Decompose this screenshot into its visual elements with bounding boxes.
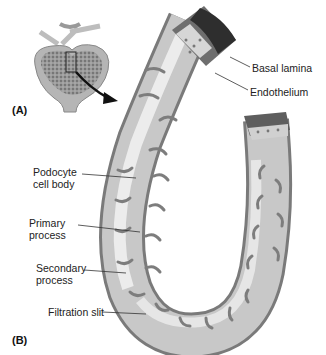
label-secondary-process: Secondary process — [36, 262, 86, 286]
label-primary-line2: process — [29, 229, 66, 241]
label-basal-lamina: Basal lamina — [252, 62, 312, 74]
label-podocyte-cell-body: Podocyte cell body — [33, 166, 77, 190]
label-primary-line1: Primary — [29, 217, 66, 229]
panel-label-a-text: (A) — [12, 104, 27, 116]
label-podocyte-line2: cell body — [33, 178, 77, 190]
capillary-loop — [116, 6, 290, 335]
label-podocyte-line1: Podocyte — [33, 166, 77, 178]
label-filtration-slit: Filtration slit — [48, 306, 104, 318]
label-secondary-line2: process — [36, 274, 86, 286]
label-secondary-line1: Secondary — [36, 262, 86, 274]
label-primary-process: Primary process — [29, 217, 66, 241]
label-endothelium: Endothelium — [250, 86, 308, 98]
glomerulus-illustration — [35, 24, 118, 112]
panel-label-b: (B) — [12, 334, 27, 346]
podocyte-diagram: Basal lamina Endothelium Podocyte cell b… — [0, 0, 326, 355]
